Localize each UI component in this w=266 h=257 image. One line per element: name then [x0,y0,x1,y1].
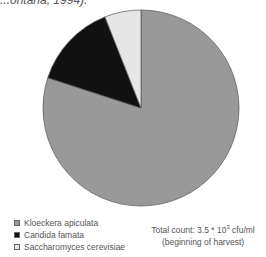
legend-swatch-kloeckera [14,220,20,226]
annotation-subtext: (beginning of harvest) [148,236,258,248]
legend-label: Kloeckera apiculata [24,217,98,229]
legend-item-candida: Candida famata [14,229,125,241]
legend-swatch-saccharomyces [14,244,20,250]
legend: Kloeckera apiculata Candida famata Sacch… [14,217,125,253]
total-count-annotation: Total count: 3.5 * 103 cfu/ml (beginning… [148,221,258,248]
legend-label: Saccharomyces cerevisiae [24,241,125,253]
legend-swatch-candida [14,232,20,238]
legend-label: Candida famata [24,229,84,241]
pie-chart [0,0,266,210]
annotation-text: Total count: 3.5 * 10 [151,225,226,235]
legend-item-kloeckera: Kloeckera apiculata [14,217,125,229]
annotation-unit: cfu/ml [230,225,255,235]
legend-item-saccharomyces: Saccharomyces cerevisiae [14,241,125,253]
